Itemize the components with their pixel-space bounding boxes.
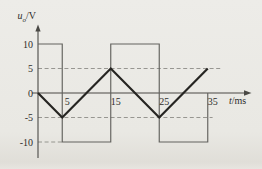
- waveform-chart: 1050-5-105152535 uo/V t/ms: [0, 0, 262, 169]
- y-axis-arrow: [35, 25, 40, 32]
- y-tick-label-5: 5: [28, 63, 33, 74]
- x-tick-label-35: 35: [208, 96, 218, 107]
- y-axis-label: uo/V: [18, 10, 37, 24]
- scanned-waveform-figure: 1050-5-105152535 uo/V t/ms: [0, 0, 262, 169]
- x-tick-label-5: 5: [65, 96, 70, 107]
- y-tick-label--5: -5: [25, 112, 33, 123]
- y-tick-label--10: -10: [20, 137, 33, 148]
- y-tick-label-0: 0: [28, 88, 33, 99]
- x-tick-label-25: 25: [159, 96, 169, 107]
- x-axis-label: t/ms: [229, 95, 246, 106]
- y-tick-label-10: 10: [23, 39, 33, 50]
- chart-plot-area: 1050-5-105152535: [20, 25, 252, 159]
- x-tick-label-15: 15: [111, 96, 121, 107]
